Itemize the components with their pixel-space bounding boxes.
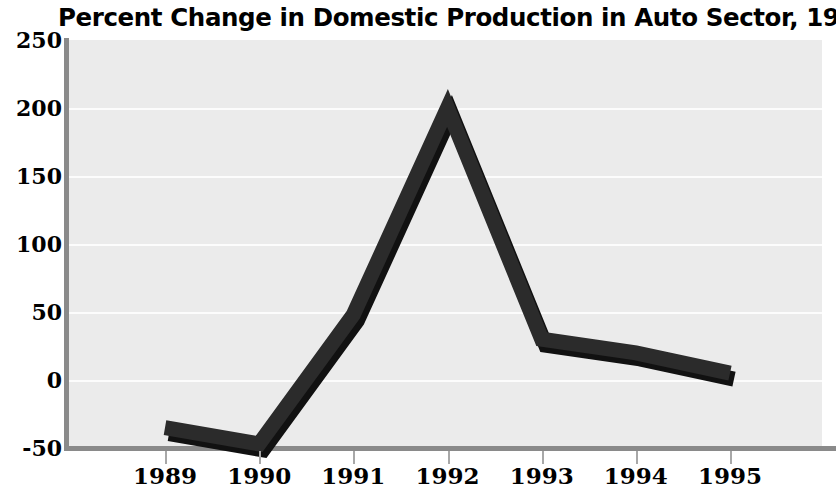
x-axis-tick-label: 1993 xyxy=(494,462,590,489)
x-axis-spine xyxy=(64,446,836,451)
y-axis-tick-label: 150 xyxy=(4,163,62,189)
y-axis-tick-label: 200 xyxy=(4,95,62,121)
y-axis-tick-labels: 250200150100500-50 xyxy=(0,0,62,495)
chart-title: Percent Change in Domestic Production in… xyxy=(58,2,836,36)
gridline xyxy=(68,244,822,246)
x-axis-tick-label: 1990 xyxy=(211,462,307,489)
x-axis-tick-label: 1991 xyxy=(305,462,401,489)
y-axis-tick-label: -50 xyxy=(4,435,62,461)
y-axis-tick-label: 50 xyxy=(4,299,62,325)
gridline xyxy=(68,380,822,382)
y-axis-tick-label: 250 xyxy=(4,27,62,53)
x-axis-tick-label: 1992 xyxy=(400,462,496,489)
y-axis-spine xyxy=(64,38,69,450)
x-axis-tick-label: 1994 xyxy=(588,462,684,489)
gridline xyxy=(68,312,822,314)
chart-figure: Percent Change in Domestic Production in… xyxy=(0,0,836,495)
plot-area xyxy=(68,40,822,448)
gridline xyxy=(68,176,822,178)
x-axis-tick-label: 1989 xyxy=(117,462,213,489)
x-axis-tick-label: 1995 xyxy=(682,462,778,489)
y-axis-tick-label: 0 xyxy=(4,367,62,393)
gridline xyxy=(68,108,822,110)
y-axis-tick-label: 100 xyxy=(4,231,62,257)
